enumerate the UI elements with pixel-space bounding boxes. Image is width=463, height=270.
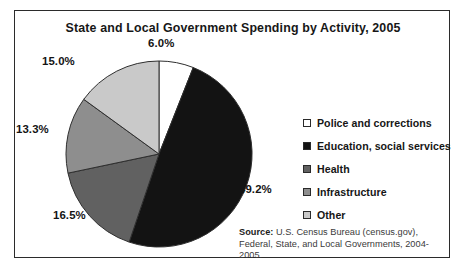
legend-item[interactable]: Health <box>303 157 453 180</box>
legend-item-label: Education, social services <box>317 140 451 152</box>
chart-title: State and Local Government Spending by A… <box>15 21 451 35</box>
legend-item[interactable]: Infrastructure <box>303 180 453 203</box>
pie-label-other: 15.0% <box>42 55 75 67</box>
legend: Police and correctionsEducation, social … <box>303 111 453 226</box>
pie-chart <box>64 59 254 249</box>
source-note: Source: U.S. Census Bureau (census.gov),… <box>239 227 445 262</box>
legend-item-label: Police and corrections <box>317 117 432 129</box>
legend-swatch-icon <box>303 119 311 127</box>
legend-swatch-icon <box>303 142 311 150</box>
pie-svg <box>64 59 254 249</box>
legend-item[interactable]: Other <box>303 203 453 226</box>
legend-item[interactable]: Education, social services <box>303 134 453 157</box>
pie-label-infrastructure: 13.3% <box>16 123 49 135</box>
legend-swatch-icon <box>303 165 311 173</box>
legend-swatch-icon <box>303 211 311 219</box>
pie-label-health: 16.5% <box>53 209 86 221</box>
figure-frame: State and Local Government Spending by A… <box>14 10 450 258</box>
pie-label-police-and-corrections: 6.0% <box>148 37 174 49</box>
pie-label-education-social-services: 49.2% <box>239 183 272 195</box>
source-label: Source: <box>239 227 273 237</box>
legend-item-label: Health <box>317 163 350 175</box>
legend-item-label: Other <box>317 209 346 221</box>
legend-swatch-icon <box>303 188 311 196</box>
legend-item-label: Infrastructure <box>317 186 387 198</box>
legend-item[interactable]: Police and corrections <box>303 111 453 134</box>
pie-slice-group <box>66 61 252 247</box>
